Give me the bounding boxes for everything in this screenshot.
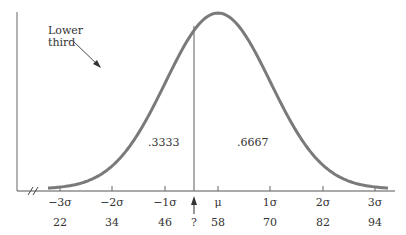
sigma-label: −1σ [153, 196, 177, 209]
score-label: 94 [368, 216, 382, 229]
sigma-label: 1σ [263, 196, 278, 209]
sigma-label: μ [214, 196, 221, 209]
right-area-value: .6667 [237, 136, 269, 149]
sigma-label: 2σ [316, 196, 331, 209]
normal-curve [48, 13, 388, 188]
annotation-arrow [74, 42, 98, 65]
score-labels: 22 34 46 ? 58 70 82 94 [53, 216, 382, 229]
score-label: 58 [211, 216, 225, 229]
score-label: 70 [263, 216, 277, 229]
left-area-value: .3333 [148, 136, 180, 149]
score-label: 82 [316, 216, 330, 229]
annotation-line2: third [48, 36, 75, 49]
score-label: 34 [105, 216, 119, 229]
unknown-score-label: ? [191, 216, 197, 229]
score-label: 46 [158, 216, 172, 229]
up-arrow-icon [191, 196, 197, 205]
score-label: 22 [53, 216, 67, 229]
x-ticks [60, 186, 375, 191]
sigma-label: −3σ [48, 196, 72, 209]
sigma-label: 3σ [368, 196, 383, 209]
sigma-labels: −3σ −2σ −1σ μ 1σ 2σ 3σ [48, 196, 383, 209]
normal-curve-figure: Lower third .3333 .6667 −3σ −2σ −1σ μ 1σ… [0, 0, 406, 235]
sigma-label: −2σ [100, 196, 124, 209]
